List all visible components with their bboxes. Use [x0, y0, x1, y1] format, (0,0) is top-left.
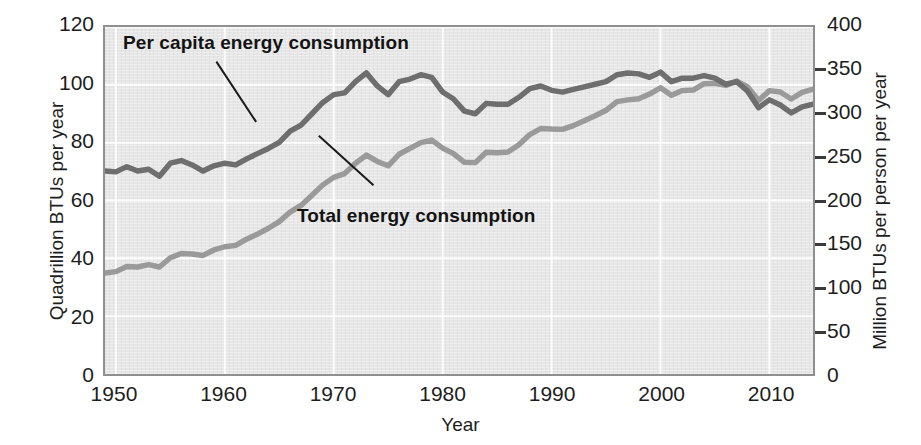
y-tick-mark-right-50 — [815, 331, 826, 334]
y-tick-mark-right-100 — [815, 287, 826, 290]
y-tick-left-120: 120 — [20, 13, 94, 34]
x-tick-2000: 2000 — [617, 383, 707, 404]
y-tick-left-60: 60 — [20, 189, 94, 210]
x-axis-title: Year — [0, 414, 921, 436]
y-tick-right-150: 150 — [827, 232, 889, 253]
y-tick-right-250: 250 — [827, 145, 889, 166]
y-tick-right-300: 300 — [827, 101, 889, 122]
plot-area — [103, 25, 815, 376]
y-tick-left-40: 40 — [20, 247, 94, 268]
annotation-leader-lines — [105, 27, 813, 374]
x-tick-1980: 1980 — [398, 383, 488, 404]
series-label-total: Total energy consumption — [297, 205, 536, 227]
x-tick-2010: 2010 — [726, 383, 816, 404]
y-tick-left-100: 100 — [20, 72, 94, 93]
y-tick-right-0: 0 — [827, 364, 889, 385]
x-tick-1960: 1960 — [178, 383, 268, 404]
y-tick-mark-right-350 — [815, 68, 826, 71]
energy-consumption-chart: Per capita energy consumption Total ener… — [0, 0, 921, 445]
y-tick-mark-right-200 — [815, 200, 826, 203]
y-tick-mark-right-300 — [815, 112, 826, 115]
x-tick-1970: 1970 — [288, 383, 378, 404]
y-tick-mark-right-250 — [815, 156, 826, 159]
y-tick-right-350: 350 — [827, 57, 889, 78]
y-tick-right-50: 50 — [827, 320, 889, 341]
series-label-per-capita: Per capita energy consumption — [123, 32, 409, 54]
y-tick-right-400: 400 — [827, 13, 889, 34]
y-tick-mark-right-150 — [815, 243, 826, 246]
x-tick-1950: 1950 — [69, 383, 159, 404]
y-tick-right-200: 200 — [827, 189, 889, 210]
y-tick-right-100: 100 — [827, 276, 889, 297]
y-tick-left-0: 0 — [20, 364, 94, 385]
y-tick-left-80: 80 — [20, 130, 94, 151]
y-tick-left-20: 20 — [20, 306, 94, 327]
x-tick-1990: 1990 — [507, 383, 597, 404]
